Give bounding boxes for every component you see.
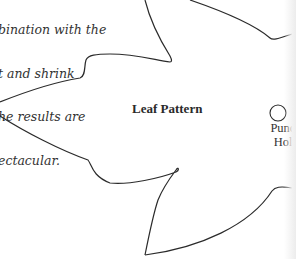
leaf-edge-lower-right — [145, 187, 292, 255]
pattern-title: Leaf Pattern — [132, 101, 202, 117]
leaf-edge-upper-left — [0, 0, 172, 102]
craft-pattern-page: bination with the t and shrink he result… — [0, 0, 296, 259]
leaf-edge-upper-right — [190, 0, 292, 39]
leaf-outline — [0, 0, 296, 259]
page-fold-shadow — [284, 0, 296, 259]
leaf-edge-lower-left — [0, 116, 178, 255]
